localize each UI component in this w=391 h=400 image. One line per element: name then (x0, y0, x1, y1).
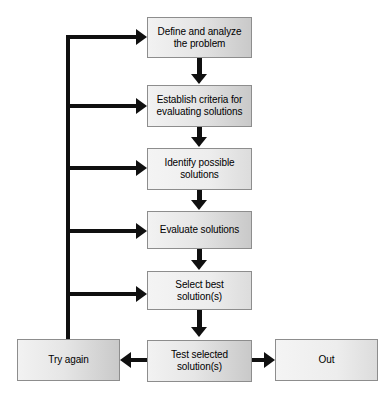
connector-identify-to-evaluate-arrowhead (191, 200, 207, 210)
node-identify-label: Identify possible solutions (164, 157, 234, 181)
connector-test-to-try-again-arrowhead (120, 352, 131, 368)
feedback-branch-establish-arrowhead (136, 98, 147, 114)
feedback-branch-define-arrowhead (136, 29, 147, 45)
connector-select-to-test-arrowhead (191, 327, 207, 337)
node-test-selected-solutions[interactable]: Test selected solution(s) (147, 340, 252, 382)
connector-test-to-out-arrowhead (264, 352, 275, 368)
feedback-branch-establish-line (66, 104, 138, 108)
feedback-branch-identify-line (66, 166, 138, 170)
feedback-branch-select-line (66, 292, 138, 296)
node-select-label: Select best solution(s) (175, 279, 223, 303)
node-establish-label: Establish criteria for evaluating soluti… (157, 94, 243, 118)
node-evaluate-label: Evaluate solutions (160, 224, 239, 236)
feedback-branch-identify-arrowhead (136, 160, 147, 176)
feedback-branch-evaluate-arrowhead (136, 223, 147, 239)
connector-establish-to-identify-arrowhead (191, 137, 207, 147)
node-establish-criteria[interactable]: Establish criteria for evaluating soluti… (147, 85, 252, 127)
flowchart-diagram: Define and analyze the problem Establish… (0, 0, 391, 400)
feedback-branch-define-line (66, 35, 138, 39)
node-define-and-analyze-the-problem[interactable]: Define and analyze the problem (147, 17, 252, 58)
node-try-again-label: Try again (48, 354, 88, 366)
node-select-best-solutions[interactable]: Select best solution(s) (147, 271, 252, 310)
node-try-again[interactable]: Try again (17, 339, 120, 381)
feedback-branch-select-arrowhead (136, 286, 147, 302)
connector-define-to-establish-arrowhead (191, 74, 207, 84)
node-out[interactable]: Out (275, 339, 378, 381)
node-test-label: Test selected solution(s) (171, 349, 228, 373)
node-evaluate-solutions[interactable]: Evaluate solutions (147, 211, 252, 249)
node-identify-possible-solutions[interactable]: Identify possible solutions (147, 148, 252, 190)
feedback-branch-evaluate-line (66, 229, 138, 233)
connector-evaluate-to-select-arrowhead (191, 260, 207, 270)
node-out-label: Out (319, 354, 335, 366)
node-define-label: Define and analyze the problem (158, 26, 242, 50)
